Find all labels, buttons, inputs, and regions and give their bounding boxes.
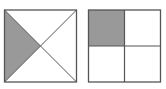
right-square-shaded-quadrant bbox=[89, 10, 125, 46]
left-square-figure bbox=[5, 10, 77, 82]
right-square-figure bbox=[89, 10, 161, 82]
left-square-shaded-triangle bbox=[5, 10, 41, 82]
fraction-diagram bbox=[0, 0, 166, 89]
